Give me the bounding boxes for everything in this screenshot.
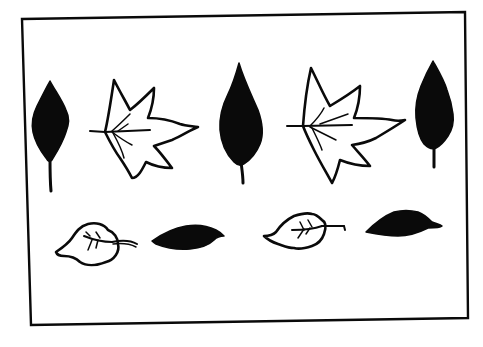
maple-leaf-1-vein <box>90 131 105 132</box>
dark-leaf-1-stem <box>50 158 51 191</box>
leaf-pattern-illustration <box>0 0 483 347</box>
